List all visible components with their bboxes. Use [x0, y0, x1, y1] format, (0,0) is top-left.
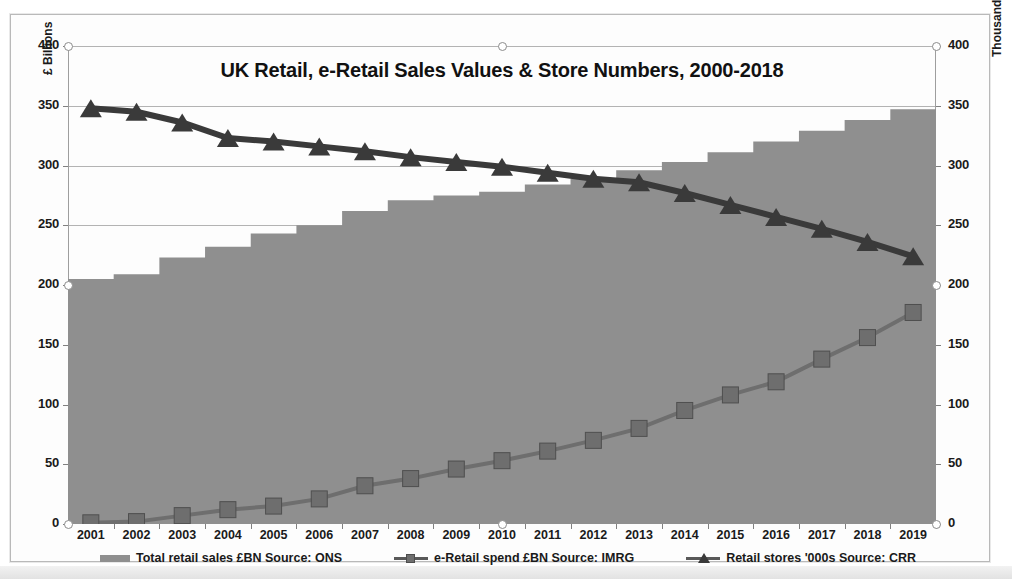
x-tick-label: 2012 — [579, 528, 607, 542]
selection-handle[interactable] — [932, 520, 941, 529]
y-tick-left: 250 — [19, 216, 59, 231]
y-tick-right: 350 — [948, 97, 969, 112]
tick-mark — [662, 524, 663, 529]
selection-handle[interactable] — [932, 42, 941, 51]
marker-eretail — [357, 478, 373, 494]
y-tick-left: 350 — [19, 97, 59, 112]
tick-mark — [936, 225, 941, 226]
x-tick-label: 2016 — [762, 528, 790, 542]
x-tick-label: 2005 — [260, 528, 288, 542]
legend-line-square-marker — [394, 553, 428, 563]
tick-mark — [342, 524, 343, 529]
x-tick-label: 2018 — [854, 528, 882, 542]
tick-mark — [799, 524, 800, 529]
x-tick-label: 2014 — [671, 528, 699, 542]
y-tick-left: 0 — [19, 515, 59, 530]
tick-mark — [159, 524, 160, 529]
tick-mark — [845, 524, 846, 529]
tick-mark — [708, 524, 709, 529]
chart-series-layer — [68, 46, 936, 524]
tick-mark — [63, 225, 68, 226]
tick-mark — [63, 106, 68, 107]
selection-handle[interactable] — [932, 281, 941, 290]
tick-mark — [63, 166, 68, 167]
x-tick-label: 2009 — [442, 528, 470, 542]
marker-eretail — [905, 304, 921, 320]
x-tick-label: 2008 — [397, 528, 425, 542]
tick-mark — [936, 464, 941, 465]
tick-mark — [525, 524, 526, 529]
marker-eretail — [220, 502, 236, 518]
marker-eretail — [585, 432, 601, 448]
tick-mark — [936, 345, 941, 346]
x-tick-label: 2013 — [625, 528, 653, 542]
selection-handle[interactable] — [64, 520, 73, 529]
legend-line-triangle-marker — [686, 553, 720, 563]
marker-eretail — [540, 443, 556, 459]
tick-mark — [936, 166, 941, 167]
marker-eretail — [83, 515, 99, 524]
legend-item[interactable]: Retail stores '000s Source: CRR — [686, 551, 916, 565]
x-tick-label: 2002 — [123, 528, 151, 542]
marker-eretail — [266, 498, 282, 514]
y-tick-left: 400 — [19, 37, 59, 52]
y-tick-right: 150 — [948, 336, 969, 351]
y-tick-right: 250 — [948, 216, 969, 231]
y-tick-right: 300 — [948, 157, 969, 172]
tick-mark — [571, 524, 572, 529]
selection-handle[interactable] — [498, 520, 507, 529]
marker-eretail — [448, 461, 464, 477]
tick-mark — [296, 524, 297, 529]
tick-mark — [63, 405, 68, 406]
tick-mark — [890, 524, 891, 529]
marker-eretail — [129, 514, 145, 524]
marker-eretail — [677, 402, 693, 418]
legend-item[interactable]: e-Retail spend £BN Source: IMRG — [394, 551, 634, 565]
selection-handle[interactable] — [64, 281, 73, 290]
tick-mark — [205, 524, 206, 529]
y-tick-right: 100 — [948, 396, 969, 411]
marker-eretail — [311, 491, 327, 507]
tick-mark — [616, 524, 617, 529]
marker-eretail — [174, 508, 190, 524]
y-tick-right: 400 — [948, 37, 969, 52]
marker-eretail — [768, 374, 784, 390]
marker-eretail — [494, 453, 510, 469]
y-axis-title-right: Thousands — [990, 0, 1004, 57]
x-tick-label: 2011 — [534, 528, 561, 542]
legend-item-label: Retail stores '000s Source: CRR — [726, 551, 916, 565]
legend-item-label: Total retail sales £BN Source: ONS — [136, 551, 342, 565]
selection-handle[interactable] — [64, 42, 73, 51]
y-tick-left: 100 — [19, 396, 59, 411]
y-tick-right: 50 — [948, 455, 962, 470]
legend-item-label: e-Retail spend £BN Source: IMRG — [434, 551, 634, 565]
marker-eretail — [722, 387, 738, 403]
marker-eretail — [814, 351, 830, 367]
y-tick-left: 150 — [19, 336, 59, 351]
legend-area-swatch — [100, 555, 130, 562]
tick-mark — [936, 106, 941, 107]
chart-legend: Total retail sales £BN Source: ONSe-Reta… — [68, 551, 948, 565]
x-tick-label: 2001 — [77, 528, 105, 542]
page-background — [0, 566, 1012, 579]
y-tick-right: 0 — [948, 515, 955, 530]
tick-mark — [63, 464, 68, 465]
marker-eretail — [631, 420, 647, 436]
x-tick-label: 2015 — [717, 528, 745, 542]
tick-mark — [479, 524, 480, 529]
x-tick-label: 2017 — [808, 528, 836, 542]
x-tick-label: 2010 — [488, 528, 516, 542]
tick-mark — [114, 524, 115, 529]
legend-item[interactable]: Total retail sales £BN Source: ONS — [100, 551, 342, 565]
selection-handle[interactable] — [498, 42, 507, 51]
y-tick-left: 50 — [19, 455, 59, 470]
marker-eretail — [403, 471, 419, 487]
y-tick-left: 200 — [19, 276, 59, 291]
x-tick-label: 2019 — [899, 528, 927, 542]
tick-mark — [433, 524, 434, 529]
x-tick-label: 2007 — [351, 528, 379, 542]
x-tick-label: 2003 — [168, 528, 196, 542]
tick-mark — [936, 405, 941, 406]
x-tick-label: 2004 — [214, 528, 242, 542]
plot-area — [68, 46, 936, 524]
